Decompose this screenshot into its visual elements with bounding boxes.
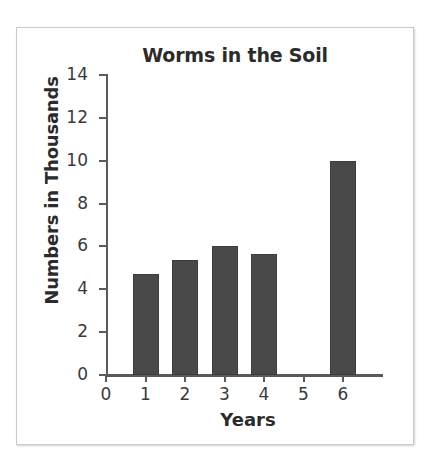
x-tick-1: [145, 374, 147, 382]
y-tick-label-14: 14: [28, 64, 88, 84]
x-tick-4: [263, 374, 265, 382]
x-tick-2: [184, 374, 186, 382]
x-tick-5: [303, 374, 305, 382]
chart-figure-frame: Worms in the Soil Numbers in Thousands Y…: [16, 27, 414, 445]
x-tick-label-0: 0: [86, 384, 126, 404]
y-tick-12: [99, 117, 108, 119]
plot-area: 02468101214 0123456: [17, 28, 415, 446]
y-tick-10: [99, 160, 108, 162]
y-tick-label-2: 2: [28, 321, 88, 341]
bar-year-2: [172, 260, 198, 375]
y-tick-2: [99, 331, 108, 333]
y-tick-label-12: 12: [28, 107, 88, 127]
bar-year-6: [330, 161, 356, 375]
x-tick-3: [224, 374, 226, 382]
x-tick-6: [342, 374, 344, 382]
x-tick-label-1: 1: [126, 384, 166, 404]
x-tick-label-4: 4: [244, 384, 284, 404]
bar-year-4: [251, 254, 277, 375]
y-tick-label-6: 6: [28, 235, 88, 255]
x-tick-label-6: 6: [323, 384, 363, 404]
x-tick-label-2: 2: [165, 384, 205, 404]
y-tick-8: [99, 203, 108, 205]
y-tick-label-10: 10: [28, 150, 88, 170]
x-tick-label-5: 5: [284, 384, 324, 404]
y-tick-label-8: 8: [28, 193, 88, 213]
x-tick-0: [105, 374, 107, 382]
y-tick-14: [99, 74, 108, 76]
bar-year-1: [133, 274, 159, 375]
bar-year-3: [212, 246, 238, 375]
x-tick-label-3: 3: [205, 384, 245, 404]
y-tick-4: [99, 288, 108, 290]
y-tick-6: [99, 245, 108, 247]
y-tick-label-4: 4: [28, 278, 88, 298]
y-tick-label-0: 0: [28, 364, 88, 384]
